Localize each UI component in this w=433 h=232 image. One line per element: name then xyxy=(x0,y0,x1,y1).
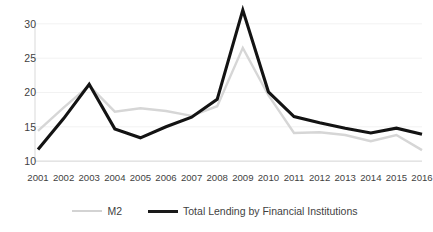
x-axis-tick-label: 2004 xyxy=(104,172,125,183)
x-axis-tick-label: 2008 xyxy=(207,172,228,183)
y-axis-tick-label: 20 xyxy=(24,86,36,98)
legend-item-label: Total Lending by Financial Institutions xyxy=(183,205,358,217)
x-axis-tick-label: 2003 xyxy=(79,172,100,183)
y-axis-tick-label: 25 xyxy=(24,52,36,64)
legend-item-label: M2 xyxy=(107,205,122,217)
plot-area xyxy=(0,0,430,172)
x-axis-tick-label: 2007 xyxy=(181,172,202,183)
y-axis-tick-labels: 1015202530 xyxy=(14,0,36,172)
x-axis-tick-label: 2014 xyxy=(360,172,381,183)
x-axis-tick-label: 2002 xyxy=(53,172,74,183)
series-line-m2 xyxy=(38,48,422,150)
legend-item[interactable]: M2 xyxy=(72,205,122,217)
x-axis-tick-label: 2005 xyxy=(130,172,151,183)
x-axis-tick-label: 2016 xyxy=(411,172,432,183)
x-axis-tick-label: 2010 xyxy=(258,172,279,183)
chart-legend: M2Total Lending by Financial Institution… xyxy=(0,198,430,224)
legend-line-swatch-icon xyxy=(148,210,178,213)
legend-item[interactable]: Total Lending by Financial Institutions xyxy=(148,205,358,217)
y-axis-tick-label: 15 xyxy=(24,121,36,133)
y-axis-tick-label: 10 xyxy=(24,155,36,167)
x-axis-tick-labels: 2001200220032004200520062007200820092010… xyxy=(0,170,430,190)
x-axis-tick-label: 2015 xyxy=(386,172,407,183)
x-axis-tick-label: 2013 xyxy=(335,172,356,183)
plot-svg xyxy=(0,0,430,172)
x-axis-tick-label: 2011 xyxy=(284,172,305,183)
x-axis-tick-label: 2012 xyxy=(309,172,330,183)
y-axis-tick-label: 30 xyxy=(24,18,36,30)
legend-line-swatch-icon xyxy=(72,210,102,212)
x-axis-tick-label: 2009 xyxy=(232,172,253,183)
x-axis-tick-label: 2006 xyxy=(155,172,176,183)
x-axis-tick-label: 2001 xyxy=(27,172,48,183)
